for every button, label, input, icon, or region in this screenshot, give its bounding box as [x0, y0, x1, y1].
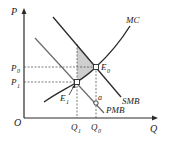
pmb-label: PMB	[105, 105, 125, 115]
y-axis-arrow-icon	[22, 8, 27, 14]
e0-label: E	[100, 62, 107, 72]
p0-subscript: 0	[17, 68, 20, 74]
x-axis-arrow-icon	[152, 116, 158, 121]
p1-label: P	[10, 77, 17, 87]
e1-point	[75, 80, 80, 85]
q1-label: Q	[71, 122, 78, 132]
mc-label: MC	[125, 15, 140, 25]
q0-label: Q	[91, 122, 98, 132]
smb-curve	[53, 17, 121, 97]
q1-subscript: 1	[78, 128, 81, 134]
x-axis-label: Q	[150, 123, 158, 134]
p0-label: P	[10, 63, 17, 73]
origin-label: O	[14, 117, 21, 128]
externality-diagram: P O Q P 0 P 1 Q 1 Q 0 MC SMB PMB E 0 E 1…	[0, 0, 172, 143]
e0-point	[94, 65, 99, 70]
e0-subscript: 0	[107, 68, 110, 74]
deadweight-area	[77, 44, 96, 82]
smb-label: SMB	[122, 96, 140, 106]
a-label: a	[98, 93, 102, 102]
y-axis-label: P	[10, 6, 17, 17]
p1-subscript: 1	[17, 83, 20, 89]
e1-subscript: 1	[66, 99, 69, 105]
q0-subscript: 0	[98, 128, 101, 134]
e1-label: E	[59, 93, 66, 103]
